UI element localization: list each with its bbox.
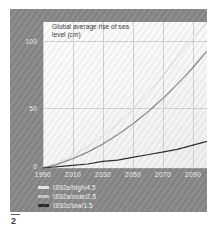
- x-tick-label: 2030: [88, 171, 118, 178]
- page-number: 2: [11, 216, 16, 226]
- series-line-is92c-low: [43, 141, 207, 168]
- y-tick-label: 100: [11, 38, 37, 45]
- legend-label: IS92c/low/1.5: [53, 202, 93, 209]
- x-tick-label: 2090: [178, 171, 207, 178]
- legend-item: IS92e/high/4.5: [38, 184, 96, 192]
- figure-panel: Global average rise of sea level (cm) 10…: [10, 9, 207, 212]
- page-number-rule: [11, 214, 20, 215]
- x-tick-label: 2070: [148, 171, 178, 178]
- x-tick-label: 1990: [28, 171, 58, 178]
- y-tick-label: 50: [11, 105, 37, 112]
- legend-label: IS92a/note/2.5: [53, 193, 96, 200]
- legend-item: IS92a/note/2.5: [38, 193, 96, 201]
- series-line-is92a-note: [43, 51, 207, 168]
- legend-label: IS92e/high/4.5: [53, 184, 96, 191]
- legend-swatch-icon: [38, 195, 49, 198]
- x-tick-label: 2050: [118, 171, 148, 178]
- series-line-is92e-high: [43, 22, 207, 168]
- chart-title: Global average rise of sea level (cm): [52, 23, 138, 40]
- legend-item: IS92c/low/1.5: [38, 202, 96, 210]
- x-tick-label: 2010: [58, 171, 88, 178]
- y-tick-label: 0: [11, 163, 37, 170]
- legend-swatch-icon: [38, 186, 49, 189]
- legend-swatch-icon: [38, 204, 49, 207]
- chart-series-group: [43, 22, 207, 169]
- chart-legend: IS92e/high/4.5 IS92a/note/2.5 IS92c/low/…: [38, 184, 96, 211]
- chart-plot-area: [43, 22, 207, 169]
